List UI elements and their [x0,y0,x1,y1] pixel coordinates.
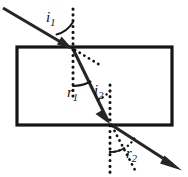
label-angle-r2: r2 [126,145,138,164]
refraction-svg: i1 r1 i2 r2 [0,0,188,177]
label-i2-sub: 2 [98,90,104,101]
emergent-ray [110,124,172,164]
angle-arc-r2-solid-part [110,149,124,153]
refraction-diagram: i1 r1 i2 r2 [0,0,188,177]
label-r2-sub: 2 [132,153,138,164]
label-r1-sub: 1 [73,92,78,103]
emergent-ray-arrowhead [160,156,182,171]
angle-arc-i1 [57,22,74,35]
label-i1-sub: 1 [50,17,55,28]
label-angle-i1: i1 [46,9,55,28]
